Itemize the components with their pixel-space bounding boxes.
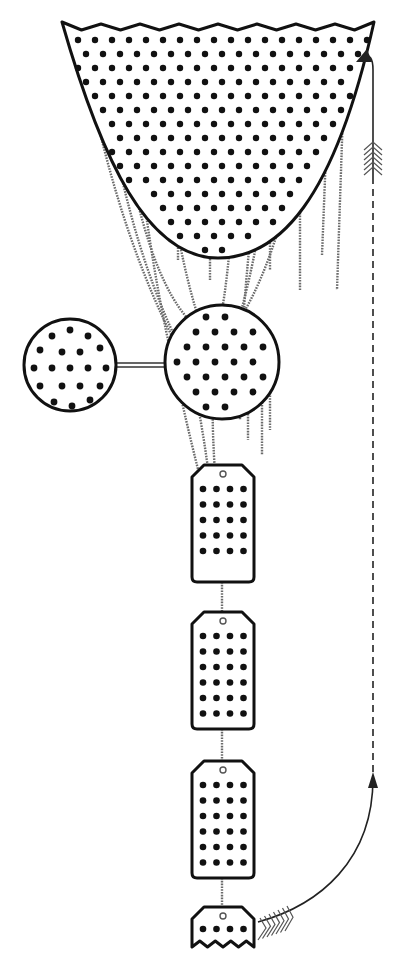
dot (279, 205, 285, 211)
dot (313, 37, 319, 43)
dot (168, 79, 174, 85)
dot (279, 93, 285, 99)
dot (117, 107, 123, 113)
dot (227, 782, 234, 789)
dot (227, 679, 234, 686)
dot (194, 93, 200, 99)
dot (279, 121, 285, 127)
dot (228, 93, 234, 99)
chain-diagram (0, 0, 396, 972)
dot (168, 107, 174, 113)
dot (174, 359, 181, 366)
dot (168, 191, 174, 197)
dot (151, 163, 157, 169)
dot (200, 501, 207, 508)
dot (202, 79, 208, 85)
dot (262, 205, 268, 211)
shapes-group (24, 22, 374, 947)
dot (236, 219, 242, 225)
dot (227, 797, 234, 804)
dot (177, 177, 183, 183)
dot (219, 107, 225, 113)
dot (304, 51, 310, 57)
dot (253, 219, 259, 225)
dot (227, 813, 234, 820)
dot (202, 51, 208, 57)
dot (330, 37, 336, 43)
dot (83, 79, 89, 85)
dot (228, 37, 234, 43)
dot (240, 517, 247, 524)
dot (245, 65, 251, 71)
dot (313, 121, 319, 127)
dot (296, 65, 302, 71)
dot (202, 107, 208, 113)
dot (228, 121, 234, 127)
dot (321, 135, 327, 141)
dot (304, 107, 310, 113)
dot (193, 359, 200, 366)
dot (227, 828, 234, 835)
dot (59, 349, 66, 356)
dot (270, 219, 276, 225)
dot (211, 65, 217, 71)
dot (193, 329, 200, 336)
dot (168, 219, 174, 225)
dot (97, 383, 104, 390)
dot (194, 233, 200, 239)
dot (213, 648, 220, 655)
dot (240, 844, 247, 851)
dot (287, 191, 293, 197)
dot (279, 177, 285, 183)
dot (219, 191, 225, 197)
dot (200, 710, 207, 717)
dot (185, 135, 191, 141)
dot (194, 205, 200, 211)
dot (134, 163, 140, 169)
dot (338, 51, 344, 57)
dot (103, 365, 110, 372)
dot (270, 79, 276, 85)
dot (75, 65, 81, 71)
dot (213, 679, 220, 686)
dot (151, 79, 157, 85)
dot (296, 177, 302, 183)
dot (211, 205, 217, 211)
dot (219, 79, 225, 85)
dot (270, 135, 276, 141)
dot (270, 51, 276, 57)
dot (245, 205, 251, 211)
dot (151, 135, 157, 141)
dot (228, 205, 234, 211)
dot (260, 344, 267, 351)
dot (109, 93, 115, 99)
dot (219, 219, 225, 225)
dot (85, 333, 92, 340)
dot (143, 121, 149, 127)
dot (296, 93, 302, 99)
dot (222, 404, 229, 411)
dot (100, 107, 106, 113)
dot (185, 219, 191, 225)
dot (160, 177, 166, 183)
dot (279, 149, 285, 155)
dot (228, 233, 234, 239)
dot (296, 121, 302, 127)
dot (287, 163, 293, 169)
dot (219, 51, 225, 57)
dot (202, 219, 208, 225)
dot (202, 191, 208, 197)
dot (85, 365, 92, 372)
main-circle (165, 305, 279, 419)
dot (177, 93, 183, 99)
dot (177, 233, 183, 239)
dot (227, 926, 234, 933)
dot (219, 135, 225, 141)
dot (213, 664, 220, 671)
dot (202, 163, 208, 169)
dot (222, 374, 229, 381)
dot (160, 93, 166, 99)
dot (262, 65, 268, 71)
dot (177, 205, 183, 211)
dot (200, 782, 207, 789)
